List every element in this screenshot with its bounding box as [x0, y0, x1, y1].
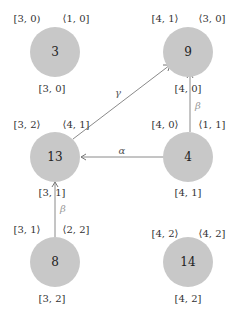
- node-value: 3: [51, 45, 59, 59]
- node-14: [4, 2⟩ ⟨4, 2] 14 [4, 2]: [152, 228, 226, 304]
- node-9: [4, 1⟩ ⟨3, 0] 9 [4, 0]: [152, 13, 226, 94]
- node-tag-top-left: [4, 2⟩: [152, 228, 179, 239]
- node-tag-bottom: [3, 0]: [39, 83, 66, 94]
- node-value: 8: [51, 255, 59, 269]
- node-tag-top-right: ⟨4, 2]: [199, 228, 226, 239]
- graph-diagram: γ α β β [3, 0) ⟨1, 0] 3 [3, 0] [4, 1⟩ ⟨3…: [0, 0, 236, 311]
- node-3: [3, 0) ⟨1, 0] 3 [3, 0]: [14, 13, 90, 94]
- node-tag-bottom: [4, 0]: [175, 83, 202, 94]
- node-value: 4: [184, 150, 192, 164]
- node-tag-top-left: [3, 0): [14, 13, 41, 24]
- edge-label-beta: β: [194, 100, 201, 111]
- node-value: 9: [184, 45, 192, 59]
- node-8: [3, 1⟩ ⟨2, 2] 8 [3, 2]: [14, 224, 90, 304]
- edge-label-gamma: γ: [115, 87, 121, 98]
- node-tag-top-right: ⟨1, 0]: [63, 13, 90, 24]
- node-tag-bottom: [4, 1]: [175, 187, 202, 198]
- node-value: 14: [180, 255, 196, 269]
- node-4: [4, 0⟩ ⟨1, 1] 4 [4, 1]: [152, 119, 226, 198]
- node-tag-top-right: ⟨4, 1]: [63, 119, 90, 130]
- node-tag-top-left: [3, 1⟩: [14, 224, 41, 235]
- node-tag-bottom: [4, 2]: [175, 293, 202, 304]
- node-tag-top-left: [3, 2⟩: [14, 119, 41, 130]
- node-13: [3, 2⟩ ⟨4, 1] 13 [3, 1]: [14, 119, 90, 198]
- edge-alpha: α: [81, 145, 165, 161]
- node-tag-bottom: [3, 2]: [39, 293, 66, 304]
- node-tag-top-left: [4, 1⟩: [152, 13, 179, 24]
- node-tag-top-left: [4, 0⟩: [152, 119, 179, 130]
- node-tag-top-right: ⟨2, 2]: [63, 224, 90, 235]
- node-tag-top-right: ⟨1, 1]: [199, 119, 226, 130]
- node-value: 13: [47, 150, 62, 164]
- edge-label-alpha: α: [119, 145, 126, 156]
- node-tag-bottom: [3, 1]: [39, 187, 66, 198]
- edge-label-beta: β: [59, 203, 66, 214]
- node-tag-top-right: ⟨3, 0]: [199, 13, 226, 24]
